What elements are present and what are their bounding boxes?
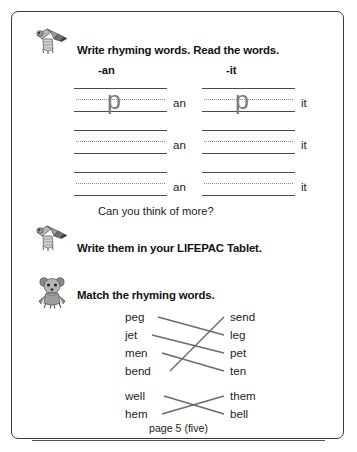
match-word-left[interactable]: jet (125, 326, 137, 344)
writing-line-baseline (202, 153, 295, 154)
writing-line-baseline (74, 195, 167, 196)
mouse-with-pencil-icon (34, 26, 68, 56)
page-number-label: page 5 (five) (12, 422, 345, 434)
writing-column-it: p it it it (202, 86, 295, 212)
writing-line-group[interactable]: it (202, 128, 295, 161)
prefilled-letter: p (107, 88, 121, 113)
section-lifepac-heading: Write them in your LIFEPAC Tablet. (77, 242, 262, 254)
writing-line-dotted-mid (76, 183, 165, 184)
section-match-heading: Match the rhyming words. (77, 289, 215, 301)
word-suffix: an (173, 181, 186, 194)
writing-line-group[interactable]: it (202, 170, 295, 203)
writing-line-top (74, 172, 167, 173)
match-connector-bend-send (170, 317, 224, 371)
writing-line-group[interactable]: an (74, 170, 167, 203)
writing-line-top (202, 172, 295, 173)
standing-mouse-icon (36, 275, 72, 309)
match-connector-well-bell (164, 396, 224, 414)
match-connector-hem-them (162, 396, 224, 414)
match-word-right[interactable]: leg (230, 326, 245, 344)
section-write-heading: Write rhyming words. Read the words. (77, 44, 279, 56)
worksheet-page-border: Write rhyming words. Read the words. -an… (11, 11, 344, 439)
writing-line-group[interactable]: p an (74, 86, 167, 119)
match-word-left[interactable]: men (125, 344, 148, 362)
worksheet-page-content: Write rhyming words. Read the words. -an… (12, 12, 345, 440)
writing-column-an: p an an an (74, 86, 167, 212)
match-word-left[interactable]: well (125, 387, 145, 405)
word-suffix: it (301, 97, 307, 110)
match-word-left[interactable]: hem (125, 405, 148, 423)
writing-line-dotted-mid (204, 183, 293, 184)
writing-line-top (202, 130, 295, 131)
word-suffix: an (173, 97, 186, 110)
writing-line-top (74, 130, 167, 131)
think-of-more-question: Can you think of more? (98, 205, 214, 217)
word-suffix: it (301, 139, 307, 152)
match-word-right[interactable]: bell (230, 405, 248, 423)
match-word-right[interactable]: send (230, 308, 255, 326)
match-connector-jet-pet (152, 335, 224, 353)
column-label-an: -an (98, 64, 115, 76)
writing-line-dotted-mid (204, 141, 293, 142)
match-connector-lines (12, 308, 345, 416)
footer-divider (32, 440, 325, 441)
column-label-it: -it (226, 64, 237, 76)
match-exercise-area: pegjetmenbendwellhem sendlegpettenthembe… (12, 308, 345, 416)
match-word-right[interactable]: ten (230, 362, 246, 380)
writing-line-baseline (202, 195, 295, 196)
mouse-with-pencil-icon (34, 223, 68, 253)
word-suffix: an (173, 139, 186, 152)
match-word-left[interactable]: bend (125, 362, 151, 380)
writing-line-group[interactable]: an (74, 128, 167, 161)
prefilled-letter: p (235, 88, 249, 113)
writing-line-group[interactable]: p it (202, 86, 295, 119)
match-word-right[interactable]: pet (230, 344, 246, 362)
match-connector-peg-leg (158, 317, 224, 335)
match-connector-men-ten (162, 353, 224, 371)
word-suffix: it (301, 181, 307, 194)
match-word-right[interactable]: them (230, 387, 256, 405)
match-word-left[interactable]: peg (125, 308, 144, 326)
writing-line-dotted-mid (76, 141, 165, 142)
writing-line-baseline (74, 153, 167, 154)
